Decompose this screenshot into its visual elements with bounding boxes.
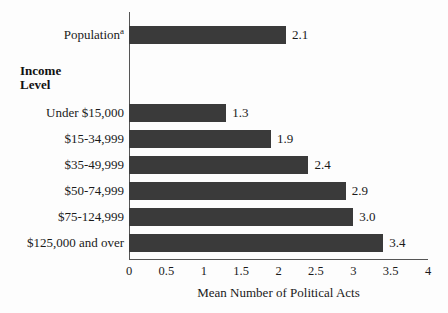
- category-label-text: $75-124,999: [58, 209, 124, 224]
- category-label-text: $15-34,999: [64, 131, 124, 146]
- category-label-text: Population: [64, 27, 120, 42]
- bar-value-label: 3.4: [389, 234, 405, 252]
- category-label-text: Under $15,000: [46, 105, 124, 120]
- category-label: Populationa: [64, 26, 124, 44]
- category-label: $35-49,999: [64, 156, 124, 174]
- category-label: Under $15,000: [46, 104, 124, 122]
- category-label: $50-74,999: [64, 182, 124, 200]
- bar-value-label: 1.9: [277, 130, 293, 148]
- category-label-superscript: a: [120, 26, 124, 36]
- bar-value-label: 2.1: [292, 26, 308, 44]
- bar-value-label: 2.9: [352, 182, 368, 200]
- category-label: $75-124,999: [58, 208, 124, 226]
- bar-value-label: 3.0: [359, 208, 375, 226]
- x-tick-label: 3.5: [371, 263, 411, 279]
- category-label-text: $50-74,999: [64, 183, 124, 198]
- bar: [129, 208, 353, 226]
- income-level-heading-line-2: Level: [20, 78, 61, 92]
- x-axis-line: [129, 259, 428, 260]
- bar: [129, 104, 226, 122]
- category-label-text: $35-49,999: [64, 157, 124, 172]
- bar: [129, 130, 271, 148]
- category-label: $125,000 and over: [27, 234, 124, 252]
- bar: [129, 156, 308, 174]
- x-tick-label: 4: [408, 263, 448, 279]
- x-tick-label: 0.5: [146, 263, 186, 279]
- bar-value-label: 1.3: [232, 104, 248, 122]
- x-tick-label: 2: [259, 263, 299, 279]
- income-level-heading-line-1: Income: [20, 64, 61, 78]
- bar-value-label: 2.4: [314, 156, 330, 174]
- bar: [129, 26, 286, 44]
- x-tick-label: 3: [333, 263, 373, 279]
- x-axis-title: Mean Number of Political Acts: [129, 285, 428, 301]
- x-tick-label: 1: [184, 263, 224, 279]
- x-tick-label: 1.5: [221, 263, 261, 279]
- bar: [129, 182, 346, 200]
- x-tick-label: 0: [109, 263, 149, 279]
- bar-chart: Income Level 2.1Populationa1.3Under $15,…: [0, 0, 448, 313]
- x-tick-label: 2.5: [296, 263, 336, 279]
- income-level-heading: Income Level: [20, 64, 61, 92]
- category-label-text: $125,000 and over: [27, 235, 124, 250]
- bar: [129, 234, 383, 252]
- category-label: $15-34,999: [64, 130, 124, 148]
